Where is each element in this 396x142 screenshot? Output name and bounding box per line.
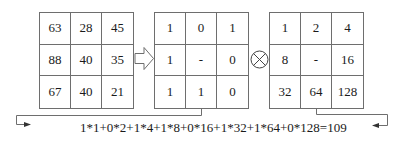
grid-cell: 0: [217, 45, 248, 77]
grid-cell: 28: [71, 13, 102, 45]
grid-cell: 35: [102, 45, 133, 77]
grid-cell: 45: [102, 13, 133, 45]
hollow-right-arrow-icon: [135, 48, 154, 70]
grid-cell: 32: [270, 76, 301, 108]
grid-cell: 88: [40, 45, 71, 77]
circled-times-icon: [251, 51, 268, 68]
grid-cell: 1: [270, 13, 301, 45]
grid-cell-center: -: [186, 45, 217, 77]
grid-cell: 40: [71, 76, 102, 108]
grid-cell: 2: [301, 13, 332, 45]
grid-cell-center: 40: [71, 45, 102, 77]
grid-cell: 1: [155, 13, 186, 45]
grid-cell: 64: [301, 76, 332, 108]
grid-cell: 0: [186, 13, 217, 45]
grid-cell: 63: [40, 13, 71, 45]
grid-cell: 21: [102, 76, 133, 108]
grid-cell: 1: [217, 13, 248, 45]
grid-cell: 128: [332, 76, 363, 108]
pixel-value-grid: 63 28 45 88 40 35 67 40 21: [39, 12, 134, 109]
grid-cell: 1: [186, 76, 217, 108]
weight-grid: 1 2 4 8 - 16 32 64 128: [269, 12, 364, 109]
grid-cell: 1: [155, 76, 186, 108]
grid-cell: 4: [332, 13, 363, 45]
grid-cell-center: -: [301, 45, 332, 77]
grid-cell: 1: [155, 45, 186, 77]
grid-cell: 67: [40, 76, 71, 108]
weighted-sum-formula: 1*1+0*2+1*4+1*8+0*16+1*32+1*64+0*128=109: [80, 120, 347, 136]
binary-pattern-grid: 1 0 1 1 - 0 1 1 0: [154, 12, 249, 109]
grid-cell: 0: [217, 76, 248, 108]
grid-cell: 8: [270, 45, 301, 77]
grid-cell: 16: [332, 45, 363, 77]
